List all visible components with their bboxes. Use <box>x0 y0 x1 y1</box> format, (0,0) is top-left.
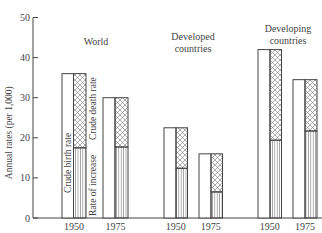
group-label: Developing <box>265 23 312 34</box>
birth-rate-annotation: Crude birth rate <box>63 133 73 193</box>
increase-rate-bar <box>305 131 317 218</box>
death-rate-bar <box>270 50 282 141</box>
y-tick-label: 50 <box>20 12 30 23</box>
year-label: 1950 <box>166 221 186 232</box>
bar-world-1975 <box>103 98 128 218</box>
year-label: 1975 <box>106 221 126 232</box>
group-label: Developed <box>171 31 214 42</box>
y-tick-label: 40 <box>20 52 30 63</box>
death-rate-bar <box>176 128 188 169</box>
increase-rate-bar <box>211 192 223 218</box>
increase-rate-annotation: Rate of increase <box>88 155 98 216</box>
group-label: countries <box>175 43 212 54</box>
year-label: 1975 <box>295 221 315 232</box>
y-tick-label: 10 <box>20 172 30 183</box>
death-rate-bar <box>74 74 87 148</box>
birth-rate-bar <box>258 50 270 218</box>
y-tick-label: 0 <box>25 213 30 224</box>
death-rate-annotation: Crude death rate <box>88 77 98 140</box>
death-rate-bar <box>305 80 317 131</box>
bars <box>62 50 317 218</box>
year-label: 1975 <box>201 221 221 232</box>
birth-rate-bar <box>199 154 211 218</box>
birth-rate-bar <box>164 128 176 218</box>
birth-rate-bar <box>293 80 305 218</box>
y-tick-label: 20 <box>20 132 30 143</box>
y-tick-label: 30 <box>20 92 30 103</box>
death-rate-bar <box>211 154 223 192</box>
year-label: 1950 <box>260 221 280 232</box>
population-rates-chart: 01020304050Annual rates (per 1,000) 1950… <box>0 0 322 233</box>
y-axis-label: Annual rates (per 1,000) <box>4 86 15 179</box>
group-label: World <box>84 36 109 47</box>
increase-rate-bar <box>176 168 188 218</box>
increase-rate-bar <box>74 148 87 218</box>
increase-rate-bar <box>115 147 128 218</box>
death-rate-bar <box>115 98 128 147</box>
bar-developing-1975 <box>293 80 317 218</box>
increase-rate-bar <box>270 140 282 218</box>
bar-developed-1950 <box>164 128 188 218</box>
bar-developed-1975 <box>199 154 223 218</box>
group-label: countries <box>270 35 307 46</box>
year-label: 1950 <box>64 221 84 232</box>
birth-rate-bar <box>103 98 115 218</box>
bar-developing-1950 <box>258 50 282 218</box>
